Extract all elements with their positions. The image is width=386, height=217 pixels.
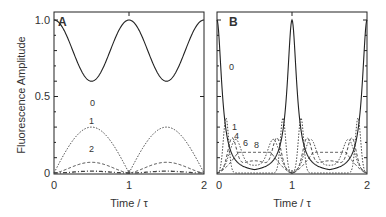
- panel-b-curve-6: [217, 139, 367, 173]
- panel-b-curve-8: [217, 152, 367, 173]
- x-axis-label-a: Time / τ: [110, 197, 148, 209]
- panel-a: A 0 1 2: [54, 12, 204, 174]
- panel-b-curve-0: [217, 20, 367, 170]
- panel-a-curve-1: [54, 127, 204, 173]
- panel-b-frame: [217, 12, 367, 174]
- b-curve-label-4: 4: [234, 131, 239, 141]
- b-x-tick-1: 1: [289, 179, 295, 191]
- y-axis-label: Fluorescence Amplitude: [15, 36, 27, 153]
- b-curve-label-0: 0: [229, 62, 234, 72]
- b-x-tick-0: 0: [216, 179, 222, 191]
- a-x-tick-1: 1: [126, 179, 132, 191]
- x-axis-label-b: Time / τ: [273, 197, 311, 209]
- y-tick-05: 0.5: [35, 90, 50, 102]
- b-curve-label-6: 6: [243, 138, 248, 148]
- a-curve-label-0: 0: [90, 98, 95, 108]
- figure: A 0 1 2 B 0 1 4 6 8 1.: [0, 0, 386, 217]
- b-x-tick-2: 2: [364, 179, 370, 191]
- panel-a-y-ticks: [54, 12, 204, 174]
- panel-b-ticks: [217, 12, 367, 174]
- panel-a-curve-0: [54, 20, 204, 81]
- panel-b: B 0 1 4 6 8: [217, 12, 367, 174]
- panel-b-label: B: [229, 15, 238, 29]
- a-x-tick-0: 0: [51, 179, 57, 191]
- panel-a-frame: [54, 12, 204, 174]
- a-curve-label-1: 1: [89, 116, 94, 126]
- panel-b-curve-4: [217, 138, 367, 173]
- a-x-tick-2: 2: [201, 179, 207, 191]
- a-curve-label-2: 2: [89, 144, 94, 154]
- y-tick-0: 0: [44, 167, 50, 179]
- y-tick-1: 1.0: [35, 14, 50, 26]
- b-curve-label-8: 8: [254, 140, 259, 150]
